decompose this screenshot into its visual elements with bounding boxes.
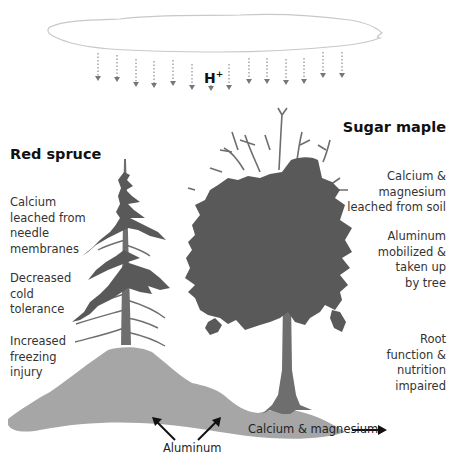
text-line: function & xyxy=(386,348,446,364)
text-line: Decreased xyxy=(10,271,71,287)
sugar-maple-title: Sugar maple xyxy=(343,119,446,135)
sugar-maple-tree xyxy=(185,108,352,414)
text-line: taken up xyxy=(378,260,446,276)
text-line: magnesium xyxy=(347,185,446,201)
text-line: Increased xyxy=(10,334,66,350)
cloud-shape xyxy=(48,14,382,52)
red-spruce-title: Red spruce xyxy=(10,146,101,162)
text-line: Aluminum xyxy=(378,229,446,245)
sugar-maple-effect-leaching: Calcium & magnesium leached from soil xyxy=(347,169,446,216)
text-line: Root xyxy=(386,332,446,348)
aluminum-label: Aluminum xyxy=(163,441,222,455)
text-line: injury xyxy=(10,365,66,381)
hydrogen-ion-label: H+ xyxy=(204,69,223,86)
text-line: freezing xyxy=(10,350,66,366)
red-spruce-effect-freezing: Increased freezing injury xyxy=(10,334,66,381)
red-spruce-tree xyxy=(72,159,170,346)
text-line: mobilized & xyxy=(378,245,446,261)
red-spruce-effect-calcium: Calcium leached from needle membranes xyxy=(10,195,86,257)
text-line: by tree xyxy=(378,276,446,292)
sugar-maple-effect-root: Root function & nutrition impaired xyxy=(386,332,446,394)
text-line: tolerance xyxy=(10,302,71,318)
text-line: Calcium xyxy=(10,195,86,211)
text-line: membranes xyxy=(10,242,86,258)
sugar-maple-effect-aluminum: Aluminum mobilized & taken up by tree xyxy=(378,229,446,291)
text-line: impaired xyxy=(386,379,446,395)
text-line: nutrition xyxy=(386,363,446,379)
red-spruce-effect-cold: Decreased cold tolerance xyxy=(10,271,71,318)
text-line: leached from xyxy=(10,211,86,227)
text-line: leached from soil xyxy=(347,200,446,216)
plus-superscript: + xyxy=(216,69,224,79)
text-line: needle xyxy=(10,226,86,242)
calcium-magnesium-label: Calcium & magnesium xyxy=(248,422,378,436)
h-label: H xyxy=(204,70,216,86)
text-line: cold xyxy=(10,287,71,303)
text-line: Calcium & xyxy=(347,169,446,185)
